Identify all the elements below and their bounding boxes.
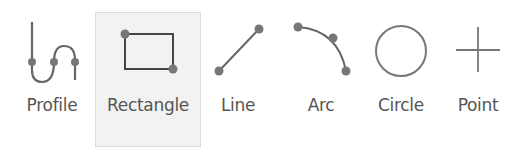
line-label: Line (208, 95, 268, 115)
profile-label: Profile (14, 95, 90, 115)
profile-tool-button[interactable]: Profile (14, 12, 90, 147)
line-icon (208, 12, 268, 92)
arc-label: Arc (286, 95, 356, 115)
rectangle-tool-button[interactable]: Rectangle (95, 12, 201, 147)
rectangle-label: Rectangle (96, 95, 200, 115)
profile-icon (14, 12, 90, 92)
point-tool-button[interactable]: Point (448, 12, 508, 147)
circle-tool-button[interactable]: Circle (366, 12, 436, 147)
point-label: Point (448, 95, 508, 115)
sketch-toolbar: Profile Rectangle Line Arc (0, 0, 530, 153)
point-icon (448, 12, 508, 92)
arc-icon (286, 12, 356, 92)
arc-tool-button[interactable]: Arc (286, 12, 356, 147)
circle-icon (366, 12, 436, 92)
circle-label: Circle (366, 95, 436, 115)
rectangle-icon (96, 13, 202, 93)
line-tool-button[interactable]: Line (208, 12, 268, 147)
